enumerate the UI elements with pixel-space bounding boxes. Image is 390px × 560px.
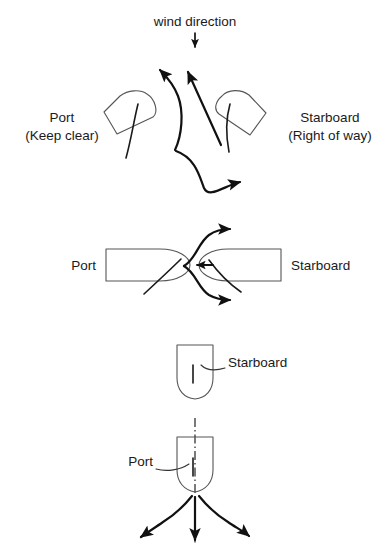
port-boat-top (104, 91, 156, 158)
starboard-label-middle: Starboard (291, 258, 350, 273)
port-label-top-line1: Port (50, 110, 75, 125)
scene-overtaking: Starboard Port (128, 345, 287, 545)
starboard-boat-hull (216, 91, 266, 135)
port-track-arrow (160, 70, 182, 150)
port-boat-middle (106, 249, 190, 294)
wind-direction-label: wind direction (153, 14, 237, 29)
diagram-canvas: wind direction Port (Keep (0, 0, 390, 560)
starboard-label-bottom: Starboard (228, 355, 287, 370)
starboard-boat-top (216, 91, 266, 152)
starboard-label-top-line1: Starboard (300, 110, 359, 125)
starboard-label-top-line2: (Right of way) (288, 128, 371, 143)
port-label-top-line2: (Keep clear) (25, 128, 99, 143)
arrow-left-curve (141, 496, 192, 537)
port-label-bottom: Port (128, 454, 153, 469)
scene-head-on: Port Starboard (71, 229, 350, 300)
scene-crossing-tacks: Port (Keep clear) Starboard (Right of wa… (25, 70, 371, 192)
starboard-boat-middle (199, 249, 281, 292)
port-boat-sail (126, 104, 138, 158)
arrow-right-curve (199, 496, 249, 536)
port-label-middle: Port (71, 258, 96, 273)
port-boat-hull (104, 91, 156, 134)
port-option-down-arrow (184, 266, 230, 300)
starboard-boat-bottom (177, 345, 213, 399)
sailing-rules-diagram: wind direction Port (Keep (0, 0, 390, 560)
starboard-boat-hull-bottom (177, 345, 213, 399)
port-boat-sail-mid (144, 259, 181, 294)
bearaway-track-arrow (176, 151, 240, 192)
port-option-up-arrow (184, 229, 230, 266)
port-boat-hull-mid (106, 249, 190, 281)
starboard-boat-sail (227, 104, 230, 152)
port-leader-line (156, 464, 189, 470)
wind-direction-group: wind direction (153, 14, 237, 47)
